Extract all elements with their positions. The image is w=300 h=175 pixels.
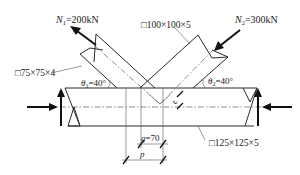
chord-left-horizontal-arrow [27,103,58,111]
chord-leader [198,126,205,140]
chord-right-horizontal-arrow [262,103,292,111]
gap-label: g=70 [141,133,160,143]
left-brace-member [80,34,160,104]
n1-label: N1=200kN [55,14,99,26]
left-brace-leader [51,66,82,73]
right-brace-member [140,35,228,104]
chord-member [60,88,262,126]
n2-label: N2=300kN [234,14,278,26]
intersection-marker [150,95,170,104]
eccentricity-label: e [170,100,179,104]
eccentricity-dimension [177,91,183,109]
chord-section-label: □125×125×5 [209,138,259,148]
n1-arrow [70,26,96,45]
n2-arrow [214,30,240,51]
theta2-label: θ2=40° [208,76,233,87]
left-brace-section-label: □75×75×4 [15,68,55,78]
theta1-label: θ1=40° [81,78,106,89]
right-brace-section-label: □100×100×5 [141,20,191,30]
pitch-label: p [139,149,145,159]
right-brace-leader [175,28,190,44]
k-joint-diagram: N1=200kN N2=300kN □100×100×5 □75×75×4 θ1… [0,0,300,175]
theta2-arc [203,80,205,88]
